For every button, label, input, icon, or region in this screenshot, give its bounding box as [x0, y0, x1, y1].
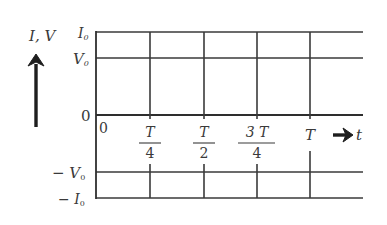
graph-figure: I, V I0 V0 0 − V0 − I0 0 T 4 T — [0, 0, 387, 225]
svg-text:2: 2 — [200, 145, 209, 161]
x-tick-t-over-4: T 4 — [139, 124, 161, 161]
up-arrow-icon — [28, 54, 44, 127]
x-tick-t: T — [305, 126, 316, 144]
y-tick-zero: 0 — [81, 107, 91, 125]
x-tick-3t-over-4: 3 T 4 — [238, 124, 275, 161]
svg-text:T: T — [199, 124, 210, 140]
right-arrow-icon — [333, 128, 353, 142]
x-tick-t-over-2: T 2 — [193, 124, 215, 161]
y-axis-label: I, V — [28, 27, 57, 45]
origin-label: 0 — [99, 120, 108, 136]
y-tick-neg-i0: − I0 — [58, 191, 85, 208]
y-tick-i0: I0 — [77, 25, 89, 42]
svg-text:4: 4 — [146, 145, 155, 161]
y-tick-v0: V0 — [73, 50, 89, 68]
y-tick-neg-v0: − V0 — [52, 164, 85, 182]
svg-text:4: 4 — [253, 145, 262, 161]
x-axis-label: t — [356, 126, 363, 144]
svg-text:3 T: 3 T — [246, 124, 270, 140]
svg-text:T: T — [145, 124, 156, 140]
